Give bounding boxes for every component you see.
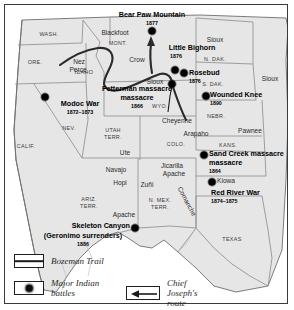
battle-label-sand-creek-massacre-line2: massacre (209, 159, 242, 167)
battle-year-sand-creek-massacre: 1864 (209, 169, 221, 175)
map-root: Bear Paw Mountain 1877 Little Bighorn 18… (0, 0, 294, 310)
state-label-utah-terr: TERR. (104, 135, 122, 141)
state-label-n-mex-terr: TERR. (151, 205, 169, 211)
state-label-s-dak: S. DAK. (202, 82, 224, 88)
battle-year-red-river-war: 1874–1875 (211, 199, 238, 205)
tribe-label-crow: Crow (129, 57, 144, 64)
tribe-label-apache: Apache (113, 212, 135, 219)
state-label-n-mex: N. MEX. (149, 198, 172, 204)
tribe-label-blackfoot: Blackfoot (101, 30, 128, 37)
battle-label-fetterman-massacre-line1: Fetterman massacre (102, 85, 172, 93)
battle-dot-sand-creek-massacre[interactable] (201, 152, 207, 158)
battle-label-rosebud: Rosebud (189, 69, 220, 77)
battle-label-skeleton-canyon-note: (Geronimo surrenders) (44, 232, 122, 240)
state-label-colo: COLO. (167, 142, 186, 148)
battle-year-rosebud: 1876 (189, 79, 201, 85)
tribe-label-jicarilla-apache: Apache (163, 171, 185, 178)
tribe-label-sioux-east: Sioux (262, 76, 279, 83)
legend-label-chief-joseph-route: Chief Joseph's route (167, 278, 197, 308)
battle-label-bear-paw-mountain: Bear Paw Mountain (119, 11, 185, 19)
state-label-utah: UTAH (105, 128, 121, 134)
battle-year-fetterman-massacre: 1866 (131, 104, 143, 110)
legend-row-major-battles: Major Indian battles (14, 278, 99, 298)
battle-dot-red-river-war[interactable] (209, 179, 215, 185)
battle-label-skeleton-canyon: Skeleton Canyon (72, 222, 130, 230)
legend-label-bozeman-trail: Bozeman Trail (51, 256, 104, 266)
battle-dot-little-bighorn[interactable] (172, 67, 178, 73)
legend-label-major-battles-line2: battles (51, 288, 75, 298)
chief-joseph-route-swatch-icon (126, 286, 160, 300)
state-label-n-dak: N. DAK. (204, 57, 226, 63)
major-battle-swatch-icon (14, 281, 44, 295)
state-label-wyo: WYO. (152, 104, 168, 110)
battle-dot-bear-paw-mountain[interactable] (149, 28, 155, 34)
battle-dot-modoc-war[interactable] (42, 94, 48, 100)
battle-year-wounded-knee: 1890 (210, 101, 222, 107)
battle-dot-rosebud[interactable] (181, 70, 187, 76)
battle-dot-wounded-knee[interactable] (203, 93, 209, 99)
legend-label-major-battles: Major Indian battles (51, 278, 99, 298)
battle-year-little-bighorn: 1876 (170, 54, 182, 60)
tribe-label-arapaho: Arapaho (184, 131, 209, 138)
battle-label-sand-creek-massacre-line1: Sand Creek massacre (209, 150, 284, 158)
tribe-label-pawnee: Pawnee (238, 128, 262, 135)
tribe-label-sioux-wyo: Sioux (147, 79, 164, 86)
tribe-label-sioux-north: Sioux (207, 37, 224, 44)
battle-year-skeleton-canyon: 1886 (77, 242, 89, 248)
state-label-texas: TEXAS (222, 237, 241, 243)
tribe-label-nez: Nez (73, 59, 85, 66)
tribe-label-zuni: Zuñi (141, 182, 154, 189)
state-label-ore: ORE. (28, 60, 43, 66)
tribe-label-jicarilla: Jicarilla (161, 163, 183, 170)
tribe-label-navajo: Navajo (106, 167, 127, 174)
legend-label-chief-joseph-route-line2: route (167, 298, 186, 308)
tribe-label-kiowa: Kiowa (217, 178, 235, 185)
battle-label-little-bighorn: Little Bighorn (169, 44, 216, 52)
battle-label-modoc-war: Modoc War (61, 100, 99, 108)
legend-label-major-battles-line1: Major Indian (51, 278, 99, 288)
map-legend: Bozeman Trail Major Indian battles Chief… (14, 252, 194, 302)
tribe-label-perce: Perce (69, 67, 86, 74)
state-label-calif: CALIF. (17, 144, 35, 150)
state-label-wash: WASH. (39, 32, 58, 38)
tribe-label-hopi: Hopi (113, 180, 127, 187)
battle-dot-skeleton-canyon[interactable] (132, 225, 138, 231)
battle-year-bear-paw-mountain: 1877 (146, 21, 158, 27)
legend-row-bozeman-trail: Bozeman Trail (14, 254, 104, 268)
state-label-ariz-terr: TERR. (80, 204, 98, 210)
tribe-label-cheyenne: Cheyenne (162, 118, 192, 125)
state-label-kans: KANS. (219, 143, 237, 149)
legend-row-chief-joseph-route: Chief Joseph's route (126, 278, 197, 308)
state-label-nev: NEV. (62, 126, 76, 132)
battle-year-modoc-war: 1872–1873 (67, 110, 94, 116)
state-label-ariz: ARIZ. (81, 197, 97, 203)
state-label-nebr: NEBR. (207, 114, 225, 120)
state-label-mont: MONT. (109, 41, 128, 47)
battle-label-fetterman-massacre-line2: massacre (120, 94, 153, 102)
battle-label-wounded-knee: Wounded Knee (210, 91, 262, 99)
legend-label-chief-joseph-route-line1: Chief Joseph's (167, 278, 197, 298)
bozeman-trail-swatch-icon (14, 254, 44, 268)
tribe-label-ute: Ute (120, 150, 130, 157)
battle-label-red-river-war: Red River War (211, 189, 260, 197)
